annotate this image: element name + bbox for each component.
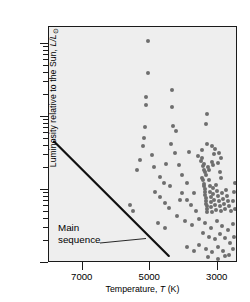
data-point (203, 221, 207, 225)
data-point (189, 203, 193, 207)
data-point (196, 154, 200, 158)
data-point (226, 228, 230, 232)
y-axis-tick-minor (43, 211, 48, 212)
data-point (211, 163, 215, 167)
data-point (227, 253, 231, 257)
data-point (177, 163, 181, 167)
data-point (231, 222, 235, 226)
data-point (170, 88, 174, 92)
data-point (214, 183, 218, 187)
data-point (229, 209, 233, 213)
data-point (228, 241, 232, 245)
y-axis-title: Luminosity relative to the Sun, L/L⊙ (48, 18, 59, 178)
data-point (197, 217, 201, 221)
y-axis-tick-minor (43, 240, 48, 241)
data-point (194, 209, 198, 213)
data-point (204, 122, 208, 126)
x-axis-tick (82, 262, 83, 270)
data-point (185, 181, 189, 185)
hr-diagram-figure: 0.1110100 Luminosity relative to the Sun… (0, 0, 250, 302)
data-point (221, 197, 225, 201)
data-point (170, 105, 174, 109)
data-point (171, 124, 175, 128)
x-axis-title: Temperature, T (K) (48, 284, 237, 294)
data-point (213, 203, 217, 207)
sun-symbol: ⊙ (51, 28, 60, 34)
data-point (167, 206, 171, 210)
data-point (185, 245, 189, 249)
x-axis-tick-label: 3000 (187, 271, 247, 282)
x-axis-title-text: Temperature, (106, 284, 160, 294)
y-axis-tick-minor (43, 145, 48, 146)
data-point (233, 181, 237, 185)
data-point (223, 207, 227, 211)
data-point (219, 176, 223, 180)
data-point (220, 191, 224, 195)
y-axis-tick-minor (43, 218, 48, 219)
main-sequence-annotation: Main sequence (58, 222, 101, 245)
data-point (178, 198, 182, 202)
data-point (185, 198, 189, 202)
annotation-line-2: sequence (58, 234, 101, 246)
data-point (174, 129, 178, 133)
y-axis-title-text: Luminosity relative to the Sun, (48, 46, 58, 167)
data-point (231, 199, 235, 203)
x-axis-tick-label: 5000 (119, 271, 179, 282)
data-point (138, 158, 142, 162)
data-point (223, 236, 227, 240)
y-axis-tick-major (40, 189, 48, 190)
data-point (216, 257, 220, 261)
data-point (215, 189, 219, 193)
data-point (210, 250, 214, 254)
data-point (215, 219, 219, 223)
y-axis-tick-minor (43, 123, 48, 124)
data-point (212, 152, 216, 156)
y-axis-tick-minor (43, 192, 48, 193)
data-point (205, 210, 209, 214)
data-point (231, 247, 235, 251)
data-point (135, 168, 139, 172)
data-point (220, 224, 224, 228)
data-point (146, 39, 150, 43)
y-axis-tick-minor (43, 132, 48, 133)
data-point (192, 249, 196, 253)
data-point (153, 190, 157, 194)
data-point (226, 199, 230, 203)
data-point (214, 208, 218, 212)
data-point (200, 148, 204, 152)
y-axis-tick-minor (43, 154, 48, 155)
data-point (144, 103, 148, 107)
y-axis-tick-minor (43, 46, 48, 47)
data-point (218, 170, 222, 174)
y-axis-tick-minor (43, 205, 48, 206)
data-point (190, 223, 194, 227)
data-point (218, 232, 222, 236)
data-point (163, 226, 167, 230)
data-point (162, 181, 166, 185)
data-point (207, 235, 211, 239)
data-point (150, 153, 154, 157)
data-point (168, 184, 172, 188)
data-point (144, 95, 148, 99)
data-point (180, 191, 184, 195)
data-point (163, 201, 167, 205)
x-axis-tick (149, 262, 150, 270)
x-axis-unit: (K) (165, 284, 179, 294)
y-axis-tick-major (40, 116, 48, 117)
data-point (213, 147, 217, 151)
data-point (216, 245, 220, 249)
data-point (141, 144, 145, 148)
data-point (212, 198, 216, 202)
y-axis-tick-minor (43, 138, 48, 139)
data-point (206, 255, 210, 259)
data-point (232, 235, 236, 239)
data-point (146, 71, 150, 75)
annotation-line-1: Main (58, 222, 101, 234)
y-axis-tick-minor (43, 167, 48, 168)
data-point (216, 194, 220, 198)
data-point (164, 162, 168, 166)
data-point (197, 243, 201, 247)
y-axis-tick-minor (43, 196, 48, 197)
data-point (156, 221, 160, 225)
data-point (213, 237, 217, 241)
